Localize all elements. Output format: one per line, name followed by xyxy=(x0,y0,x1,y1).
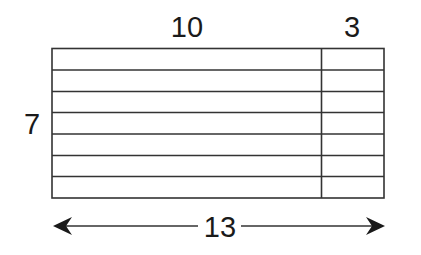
label-width-3: 3 xyxy=(344,11,360,43)
label-height-7: 7 xyxy=(24,108,40,140)
outer-rectangle xyxy=(52,49,384,199)
label-total-width-13: 13 xyxy=(204,211,236,243)
grid xyxy=(52,49,384,199)
area-model-diagram: 10 3 7 13 xyxy=(0,0,421,255)
label-width-10: 10 xyxy=(171,11,203,43)
